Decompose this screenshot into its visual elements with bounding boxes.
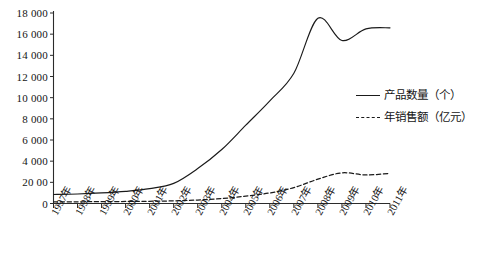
- x-axis-tick-label: 2008年: [314, 184, 338, 216]
- legend-item-annual-sales: 年销售额（亿元）: [356, 106, 492, 128]
- x-axis-tick-label: 2004年: [218, 184, 242, 216]
- x-axis-tick-label: 2006年: [266, 184, 290, 216]
- x-axis-tick-label: 2007年: [290, 184, 314, 216]
- legend-label-product-count: 产品数量（个）: [384, 89, 461, 101]
- chart-legend: 产品数量（个） 年销售额（亿元）: [356, 84, 492, 128]
- x-axis-tick-label: 1999年: [98, 184, 122, 216]
- x-axis-tick-label: 2005年: [242, 184, 266, 216]
- x-axis-tick-label: 2010年: [362, 184, 386, 216]
- x-axis-tick-label: 1998年: [74, 184, 98, 216]
- line-chart-figure: 020 004 0006 0008 00010 00012 00014 0001…: [0, 0, 492, 261]
- x-axis-tick-label: 2011年: [386, 185, 410, 217]
- legend-label-annual-sales: 年销售额（亿元）: [384, 111, 472, 123]
- x-axis-tick-labels: 1997年1998年1999年2000年2001年2002年2003年2004年…: [0, 0, 492, 261]
- legend-item-product-count: 产品数量（个）: [356, 84, 492, 106]
- legend-swatch-solid-line: [356, 95, 380, 96]
- x-axis-tick-label: 2003年: [194, 184, 218, 216]
- x-axis-tick-label: 1997年: [50, 184, 74, 216]
- x-axis-tick-label: 2002年: [170, 184, 194, 216]
- x-axis-tick-label: 2001年: [146, 184, 170, 216]
- x-axis-tick-label: 2000年: [122, 184, 146, 216]
- legend-swatch-dashed-line: [356, 117, 380, 118]
- x-axis-tick-label: 2009年: [338, 184, 362, 216]
